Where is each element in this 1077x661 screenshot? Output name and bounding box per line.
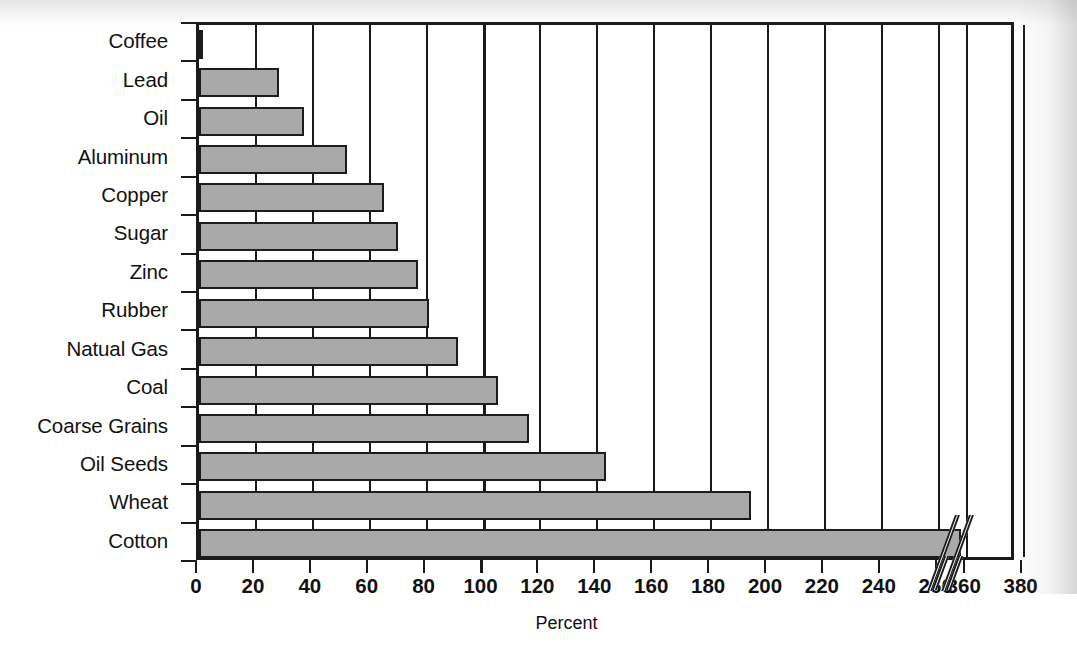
- x-tick-240: [878, 560, 880, 573]
- bar-lead: [199, 68, 279, 97]
- x-tick-220: [821, 560, 823, 573]
- x-tick-label-220: 220: [805, 574, 839, 598]
- x-tick-180: [707, 560, 709, 573]
- plot-area: [196, 22, 1014, 560]
- gridline-380: [1023, 25, 1025, 557]
- x-tick-label-180: 180: [691, 574, 725, 598]
- bar-chart: CoffeeLeadOilAluminumCopperSugarZincRubb…: [0, 0, 1077, 661]
- x-axis-title: Percent: [0, 613, 1077, 634]
- x-tick-label-40: 40: [298, 574, 321, 598]
- x-tick-label-80: 80: [412, 574, 435, 598]
- gridline-160: [653, 25, 655, 557]
- y-tick-7: [181, 291, 196, 293]
- bar-coal: [199, 376, 498, 405]
- y-tick-10: [181, 406, 196, 408]
- y-tick-2: [181, 99, 196, 101]
- gridline-360: [966, 25, 968, 557]
- y-tick-1: [181, 60, 196, 62]
- x-axis-ticks: [196, 560, 1014, 574]
- x-tick-20: [252, 560, 254, 573]
- x-tick-40: [309, 560, 311, 573]
- y-tick-8: [181, 329, 196, 331]
- y-tick-13: [181, 522, 196, 524]
- bar-coarse-grains: [199, 414, 529, 443]
- x-tick-140: [593, 560, 595, 573]
- gridline-260: [938, 25, 940, 557]
- bar-sugar: [199, 222, 398, 251]
- gridline-220: [824, 25, 826, 557]
- y-tick-12: [181, 483, 196, 485]
- bar-oil-seeds: [199, 452, 606, 481]
- y-tick-14: [181, 560, 196, 562]
- y-axis-category-labels: CoffeeLeadOilAluminumCopperSugarZincRubb…: [0, 22, 180, 560]
- gridline-200: [767, 25, 769, 557]
- y-tick-0: [181, 22, 196, 24]
- gridline-180: [710, 25, 712, 557]
- y-tick-4: [181, 176, 196, 178]
- x-axis-tick-labels: 0204060801001201401601802002202402603603…: [0, 574, 1077, 604]
- x-tick-label-240: 240: [862, 574, 896, 598]
- bar-wheat: [199, 491, 751, 520]
- x-tick-label-20: 20: [241, 574, 264, 598]
- x-tick-360: [963, 560, 965, 573]
- bar-oil: [199, 107, 304, 136]
- bar-copper: [199, 183, 384, 212]
- x-tick-120: [536, 560, 538, 573]
- x-tick-label-140: 140: [577, 574, 611, 598]
- x-tick-label-380: 380: [1003, 574, 1037, 598]
- bar-natual-gas: [199, 337, 458, 366]
- x-tick-label-120: 120: [520, 574, 554, 598]
- y-tick-11: [181, 445, 196, 447]
- x-tick-380: [1020, 560, 1022, 573]
- gridline-240: [881, 25, 883, 557]
- x-tick-label-200: 200: [748, 574, 782, 598]
- x-tick-160: [650, 560, 652, 573]
- x-tick-80: [423, 560, 425, 573]
- x-tick-label-160: 160: [634, 574, 668, 598]
- y-tick-6: [181, 253, 196, 255]
- x-tick-200: [764, 560, 766, 573]
- x-tick-60: [366, 560, 368, 573]
- y-tick-3: [181, 137, 196, 139]
- bar-aluminum: [199, 145, 347, 174]
- y-tick-9: [181, 368, 196, 370]
- bar-zinc: [199, 260, 418, 289]
- bar-coffee: [199, 30, 203, 59]
- x-axis-title-text: Percent: [535, 613, 597, 634]
- bar-cotton: [199, 529, 961, 558]
- x-tick-100: [480, 560, 483, 573]
- x-tick-label-100: 100: [463, 574, 497, 598]
- x-tick-label-0: 0: [190, 574, 201, 598]
- x-tick-label-60: 60: [355, 574, 378, 598]
- y-tick-5: [181, 214, 196, 216]
- plot-inner: [199, 25, 1011, 557]
- bar-rubber: [199, 299, 429, 328]
